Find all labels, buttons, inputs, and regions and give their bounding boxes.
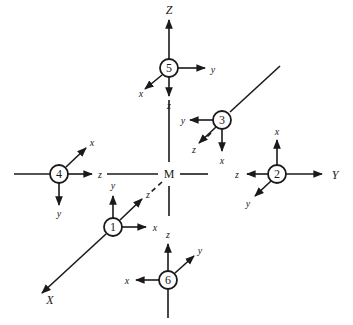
node-5-y-label: y <box>210 64 216 75</box>
node-4: 4 x z y <box>50 137 102 219</box>
node-1: 1 y z x <box>104 180 158 237</box>
node-3-number: 3 <box>219 113 225 127</box>
node-4-y-label: y <box>56 208 62 219</box>
center-label-M: M <box>164 167 175 181</box>
node-3-z-label: z <box>191 144 196 155</box>
node-1-x-label: x <box>152 222 158 233</box>
node-3-y-label: y <box>180 115 186 126</box>
node-5-x-label: x <box>138 88 144 99</box>
coordinate-diagram: Z Y X M 5 y x z 3 y z x 2 x z y <box>0 0 353 325</box>
node-2-z-label: z <box>234 169 239 180</box>
node-4-number: 4 <box>56 167 62 181</box>
node-1-y-label: y <box>110 180 116 191</box>
node-2-y-label: y <box>245 198 251 209</box>
node-2: 2 x z y <box>234 126 286 209</box>
node-4-z-label: z <box>97 169 102 180</box>
node-1-number: 1 <box>110 220 116 234</box>
node-6-z-label: z <box>165 229 170 240</box>
global-axis-Y: Y <box>332 168 340 182</box>
node-4-x-label: x <box>89 137 95 148</box>
node-1-z-label: z <box>145 189 150 200</box>
node-2-number: 2 <box>274 167 280 181</box>
global-axis-Z: Z <box>166 3 173 17</box>
node-5-z-label: z <box>166 100 171 111</box>
node-5-number: 5 <box>166 61 172 75</box>
node-6-x-label: x <box>124 275 130 286</box>
node-5: 5 y x z <box>138 59 216 111</box>
node-6-y-label: y <box>197 245 203 256</box>
node-6: 6 z x y <box>124 229 203 290</box>
node-2-x-label: x <box>274 126 280 137</box>
node-6-number: 6 <box>165 273 171 287</box>
node-3: 3 y z x <box>180 111 231 166</box>
node-3-x-label: x <box>219 155 225 166</box>
global-axis-X: X <box>45 293 54 307</box>
